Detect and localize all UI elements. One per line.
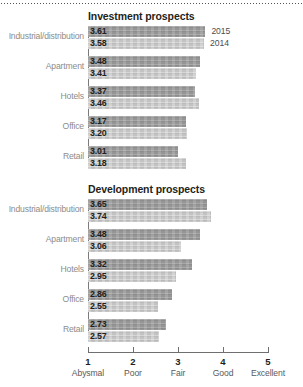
bar-group: Office3.173.20 [0,116,303,142]
bar-value-label: 3.37 [90,86,106,97]
x-axis-tick [178,347,179,352]
x-axis-tick [223,347,224,352]
category-label: Retail [0,324,84,334]
x-axis-tick-word: Excellent [238,368,298,378]
bar-value-label: 3.74 [90,211,106,222]
bar-group: Hotels3.322.95 [0,259,303,285]
x-axis-tick [88,347,89,352]
x-axis-tick [268,347,269,352]
bar-group: Industrial/distribution3.6120153.582014 [0,26,303,52]
bar-value-label: 3.18 [90,158,106,169]
category-label: Office [0,121,84,131]
bar-value-label: 2.55 [90,301,106,312]
plot-area-development-prospects: Industrial/distribution3.653.74Apartment… [0,199,303,342]
category-label: Industrial/distribution [0,31,84,41]
legend-label-2015: 2015 [211,26,230,37]
bar-value-label: 2.57 [90,331,106,342]
category-label: Industrial/distribution [0,204,84,214]
bar-group: Apartment3.483.41 [0,56,303,82]
bar-value-label: 3.48 [90,56,106,67]
top-dotted-divider [0,2,303,5]
category-label: Hotels [0,91,84,101]
x-axis-tick-number: 5 [248,356,288,367]
bar-group: Retail3.013.18 [0,146,303,172]
bar-value-label: 3.41 [90,68,106,79]
bar-group: Apartment3.483.06 [0,229,303,255]
category-label: Apartment [0,234,84,244]
bar-value-label: 3.20 [90,128,106,139]
bar-value-label: 3.58 [90,38,106,49]
bar-value-label: 3.61 [90,26,106,37]
category-label: Retail [0,151,84,161]
bar-value-label: 3.06 [90,241,106,252]
category-label: Hotels [0,264,84,274]
legend-label-2014: 2014 [210,38,229,49]
x-axis-tick-number: 2 [113,356,153,367]
bar-group: Industrial/distribution3.653.74 [0,199,303,225]
bar [88,211,211,222]
bar-value-label: 3.48 [90,229,106,240]
x-axis-tick-number: 1 [68,356,108,367]
category-label: Apartment [0,61,84,71]
bar-group: Office2.862.55 [0,289,303,315]
bar-value-label: 2.86 [90,289,106,300]
bar-value-label: 3.32 [90,259,106,270]
x-axis-tick-number: 4 [203,356,243,367]
bar-value-label: 3.17 [90,116,106,127]
bar-group: Hotels3.373.46 [0,86,303,112]
plot-area-investment-prospects: Industrial/distribution3.6120153.582014A… [0,26,303,169]
category-label: Office [0,294,84,304]
bar-value-label: 3.65 [90,199,106,210]
x-axis-line [88,352,269,353]
bar-value-label: 2.95 [90,271,106,282]
chart-title-development-prospects: Development prospects [88,183,205,195]
x-axis-tick [133,347,134,352]
x-axis-tick-number: 3 [158,356,198,367]
bar-value-label: 3.46 [90,98,106,109]
bar-group: Retail2.732.57 [0,319,303,345]
bar-value-label: 2.73 [90,319,106,330]
chart-title-investment-prospects: Investment prospects [88,10,195,22]
bar-value-label: 3.01 [90,146,106,157]
chart-page: Investment prospects Industrial/distribu… [0,0,303,387]
